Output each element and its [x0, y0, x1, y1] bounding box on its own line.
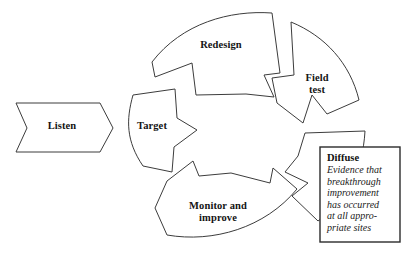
diffuse-callout[interactable]: Diffuse Evidence that breakthrough impro… [320, 147, 400, 242]
listen-arrow-shape[interactable] [16, 103, 113, 152]
segment-fieldtest-shape[interactable] [272, 22, 359, 123]
diffuse-callout-title: Diffuse [327, 152, 394, 164]
segment-monitor-shape[interactable] [155, 161, 297, 237]
diffuse-callout-body: Evidence that breakthrough improvement h… [327, 164, 394, 234]
segment-target-shape[interactable] [129, 89, 197, 172]
diagram-canvas: Listen Target Redesign Field test Monito… [0, 0, 410, 262]
segment-redesign-shape[interactable] [152, 13, 280, 97]
